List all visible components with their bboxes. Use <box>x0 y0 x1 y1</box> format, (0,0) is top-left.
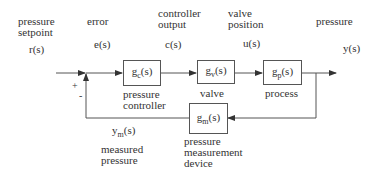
controller-output-signal-label: c(s) <box>165 39 182 50</box>
process-block: gp(s) <box>263 60 302 85</box>
valve-position-signal-label: u(s) <box>243 38 260 49</box>
measured-title: measured pressure <box>101 144 143 166</box>
valve-position-title: valve position <box>228 8 263 30</box>
measured-signal-label: ym(s) <box>112 125 135 140</box>
valve-transfer-fn: gv(s) <box>205 64 226 79</box>
minus-sign: - <box>79 90 82 101</box>
measurement-block: gm(s) <box>189 103 228 134</box>
controller-caption: pressure controller <box>123 89 166 111</box>
controller-transfer-fn: gc(s) <box>132 65 153 80</box>
process-transfer-fn: gp(s) <box>272 65 293 80</box>
measurement-transfer-fn: gm(s) <box>197 111 220 126</box>
process-caption: process <box>265 88 298 99</box>
valve-block: gv(s) <box>197 60 235 84</box>
setpoint-title: pressure setpoint <box>18 16 55 38</box>
output-signal-label: y(s) <box>343 43 360 54</box>
controller-block: gc(s) <box>123 60 161 86</box>
error-title: error <box>87 16 108 27</box>
valve-caption: valve <box>200 88 224 99</box>
output-title: pressure <box>316 16 353 27</box>
error-signal-label: e(s) <box>94 39 111 50</box>
plus-sign: + <box>72 80 78 91</box>
setpoint-signal-label: r(s) <box>29 44 44 55</box>
controller-output-title: controller output <box>158 8 201 30</box>
measurement-caption: pressure measurement device <box>184 136 243 169</box>
